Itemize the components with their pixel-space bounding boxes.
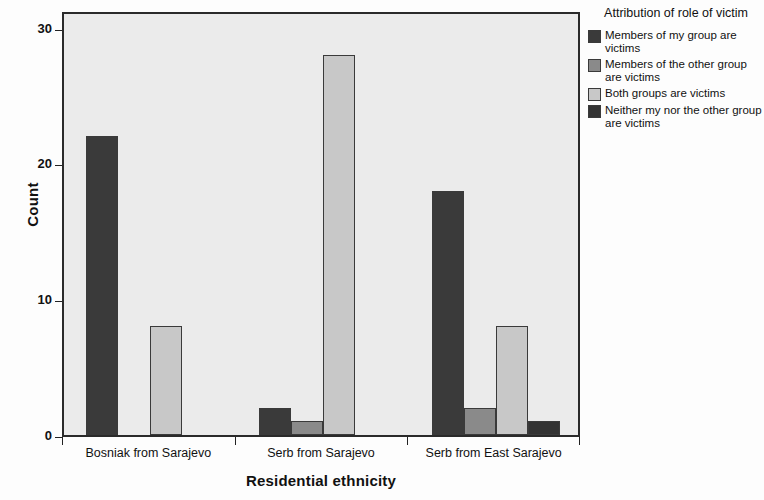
bar	[86, 136, 118, 435]
y-axis-tick-label: 0	[45, 428, 52, 443]
bar	[464, 408, 496, 435]
bar	[528, 421, 560, 435]
legend-item: Neither my nor the other group are victi…	[588, 104, 764, 130]
x-axis-tick-mark	[62, 437, 63, 445]
bar-chart-figure: Count 0102030 Bosniak from SarajevoSerb …	[0, 0, 764, 500]
bar	[150, 326, 182, 435]
legend-item: Members of my group are victims	[588, 29, 764, 55]
legend-title: Attribution of role of victim	[588, 6, 764, 20]
y-axis-tick-mark	[55, 437, 62, 438]
legend-swatch-icon	[588, 88, 601, 101]
legend: Attribution of role of victim Members of…	[588, 6, 764, 133]
x-axis-tick-mark	[579, 437, 580, 445]
legend-swatch-icon	[588, 105, 601, 118]
y-axis-tick-label: 30	[38, 21, 52, 36]
x-axis-tick-mark	[235, 437, 236, 445]
legend-swatch-icon	[588, 59, 601, 72]
x-axis-category-label: Serb from East Sarajevo	[407, 446, 580, 460]
bar	[323, 55, 355, 435]
legend-item-label: Members of the other group are victims	[605, 58, 764, 84]
plot-area	[62, 12, 580, 437]
legend-item: Members of the other group are victims	[588, 58, 764, 84]
legend-swatch-icon	[588, 30, 601, 43]
y-axis: 0102030	[0, 0, 62, 500]
x-axis-title: Residential ethnicity	[62, 472, 580, 489]
y-axis-tick-mark	[55, 301, 62, 302]
bar	[496, 326, 528, 435]
y-axis-tick-label: 10	[38, 292, 52, 307]
legend-items: Members of my group are victimsMembers o…	[588, 29, 764, 129]
x-axis-category-labels: Bosniak from SarajevoSerb from SarajevoS…	[62, 446, 580, 466]
legend-item-label: Members of my group are victims	[605, 29, 764, 55]
y-axis-tick-mark	[55, 30, 62, 31]
legend-item: Both groups are victims	[588, 87, 764, 101]
bar	[432, 191, 464, 435]
y-axis-tick-label: 20	[38, 156, 52, 171]
bar	[291, 421, 323, 435]
y-axis-tick-mark	[55, 165, 62, 166]
bar	[259, 408, 291, 435]
bars-container	[64, 14, 578, 435]
x-axis-category-label: Serb from Sarajevo	[235, 446, 408, 460]
legend-item-label: Both groups are victims	[605, 87, 725, 100]
x-axis-tick-mark	[407, 437, 408, 445]
x-axis-category-label: Bosniak from Sarajevo	[62, 446, 235, 460]
legend-item-label: Neither my nor the other group are victi…	[605, 104, 764, 130]
